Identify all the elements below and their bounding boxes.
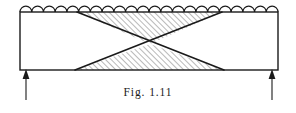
load-arc bbox=[126, 6, 138, 12]
load-arc bbox=[102, 6, 114, 12]
load-arc bbox=[67, 6, 79, 12]
load-arc bbox=[55, 6, 67, 12]
figure-caption: Fig. 1.11 bbox=[0, 86, 296, 98]
load-arc bbox=[219, 6, 231, 12]
load-arc bbox=[90, 6, 102, 12]
hatched-upper-triangle bbox=[77, 12, 222, 44]
load-arc bbox=[266, 6, 278, 12]
figure-container: Fig. 1.11 bbox=[0, 0, 296, 113]
load-arc bbox=[243, 6, 255, 12]
load-arc bbox=[255, 6, 267, 12]
load-arc bbox=[79, 6, 91, 12]
load-arc bbox=[43, 6, 55, 12]
distributed-load-arcs bbox=[20, 6, 278, 12]
load-arc bbox=[114, 6, 126, 12]
load-arc bbox=[172, 6, 184, 12]
load-arc bbox=[137, 6, 149, 12]
load-arc bbox=[32, 6, 44, 12]
load-arc bbox=[208, 6, 220, 12]
load-arc bbox=[184, 6, 196, 12]
load-arc bbox=[20, 6, 32, 12]
load-arc bbox=[161, 6, 173, 12]
load-arc bbox=[196, 6, 208, 12]
load-arc bbox=[149, 6, 161, 12]
load-arc bbox=[231, 6, 243, 12]
hatched-lower-triangle bbox=[75, 44, 224, 70]
